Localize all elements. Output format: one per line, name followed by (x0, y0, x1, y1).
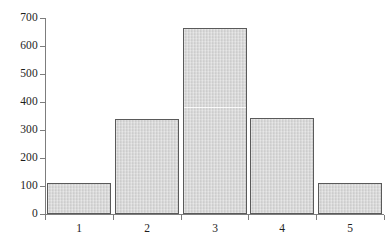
y-axis-tick (40, 102, 45, 103)
x-axis-tick (113, 215, 114, 220)
bar (318, 183, 382, 214)
x-axis-tick (248, 215, 249, 220)
bar (250, 118, 314, 214)
y-axis-tick-label: 700 (2, 12, 38, 24)
y-axis-tick (40, 158, 45, 159)
bar-texture-streak (184, 107, 246, 108)
bar (47, 183, 111, 214)
y-axis-tick (40, 18, 45, 19)
y-axis-tick-label: 600 (2, 40, 38, 52)
y-axis-tick-label: 0 (2, 208, 38, 220)
bar-chart: 0100200300400500600700 12345 (0, 0, 391, 246)
y-axis-tick (40, 46, 45, 47)
y-axis-tick-label: 100 (2, 180, 38, 192)
y-axis-tick-label: 500 (2, 68, 38, 80)
bar (115, 119, 179, 214)
x-axis-tick-label: 5 (330, 223, 370, 235)
x-axis-origin-tick (45, 215, 46, 220)
x-axis-tick-label: 2 (127, 223, 167, 235)
bar (183, 28, 247, 214)
x-axis-tick-label: 1 (59, 223, 99, 235)
y-axis-tick (40, 130, 45, 131)
y-axis-tick-label: 200 (2, 152, 38, 164)
y-axis-tick (40, 186, 45, 187)
x-axis-tick (384, 215, 385, 220)
y-axis-line (45, 18, 46, 215)
x-axis-tick (316, 215, 317, 220)
x-axis-tick-label: 4 (262, 223, 302, 235)
y-axis-tick-label: 400 (2, 96, 38, 108)
x-axis-tick (181, 215, 182, 220)
x-axis-tick-label: 3 (195, 223, 235, 235)
x-axis-line (45, 214, 384, 215)
y-axis-tick (40, 74, 45, 75)
y-axis-tick-label: 300 (2, 124, 38, 136)
